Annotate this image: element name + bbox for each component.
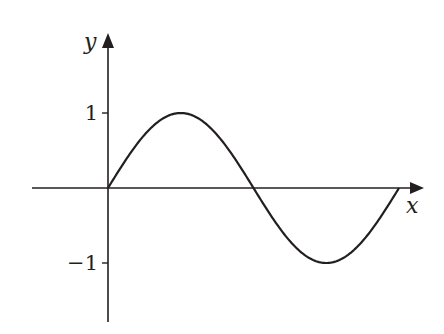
y-axis-label: y <box>83 29 97 54</box>
x-axis-label: x <box>406 193 419 218</box>
sine-graph: 1−1 x y <box>0 0 444 334</box>
y-tick-label: 1 <box>85 101 98 125</box>
y-axis-arrowhead <box>102 33 114 48</box>
y-tick-label: −1 <box>67 251 98 275</box>
